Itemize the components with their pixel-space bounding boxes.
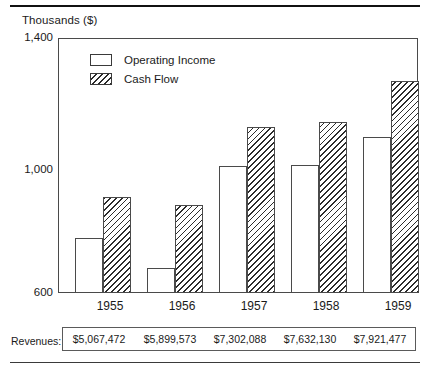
revenues-row-label: Revenues: xyxy=(11,335,61,347)
revenue-value-1955: $5,067,472 xyxy=(63,328,135,350)
x-axis-label-1958: 1958 xyxy=(290,299,362,313)
bar-operating-income-1956[interactable] xyxy=(147,268,175,293)
bar-cash-flow-1955[interactable] xyxy=(103,197,131,293)
bar-cash-flow-1956[interactable] xyxy=(175,205,203,293)
bar-cash-flow-1957[interactable] xyxy=(247,127,275,293)
y-axis-tick-label-1000: 1,000 xyxy=(5,163,53,175)
bar-operating-income-1958[interactable] xyxy=(291,165,319,293)
chart-legend: Operating Income Cash Flow xyxy=(90,50,215,88)
revenue-value-1959: $7,921,477 xyxy=(345,328,415,350)
legend-item-cash-flow[interactable]: Cash Flow xyxy=(90,69,215,88)
bar-cash-flow-1959[interactable] xyxy=(391,81,419,293)
legend-item-operating-income[interactable]: Operating Income xyxy=(90,50,215,69)
legend-label-cash-flow: Cash Flow xyxy=(124,73,178,85)
x-axis-label-1956: 1956 xyxy=(146,299,218,313)
revenue-value-1958: $7,632,130 xyxy=(275,328,345,350)
y-axis-tick-label-600: 600 xyxy=(5,286,53,298)
open-square-icon xyxy=(90,54,112,66)
legend-label-operating-income: Operating Income xyxy=(124,54,215,66)
bar-cash-flow-1958[interactable] xyxy=(319,122,347,293)
bottom-divider-rule xyxy=(10,362,420,363)
bar-operating-income-1957[interactable] xyxy=(219,166,247,293)
revenue-value-1957: $7,302,088 xyxy=(205,328,275,350)
x-axis-label-1957: 1957 xyxy=(218,299,290,313)
bar-operating-income-1959[interactable] xyxy=(363,137,391,293)
y-axis-labels: 1,400 1,000 600 xyxy=(0,0,53,368)
x-axis-label-1959: 1959 xyxy=(362,299,430,313)
x-axis-label-1955: 1955 xyxy=(74,299,146,313)
top-divider-rule xyxy=(10,5,420,7)
y-axis-tick-label-1400: 1,400 xyxy=(5,31,53,43)
revenue-value-1956: $5,899,573 xyxy=(135,328,205,350)
hatched-square-icon xyxy=(90,73,112,85)
bar-operating-income-1955[interactable] xyxy=(75,238,103,293)
revenues-row-box: $5,067,472 $5,899,573 $7,302,088 $7,632,… xyxy=(62,327,416,351)
